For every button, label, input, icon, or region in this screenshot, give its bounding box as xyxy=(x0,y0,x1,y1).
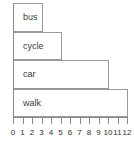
x-tick-label: 11 xyxy=(113,127,121,138)
bar-label: car xyxy=(23,70,36,79)
bar-walk: walk xyxy=(13,89,128,118)
bar-car: car xyxy=(13,60,109,89)
x-tick-label: 0 xyxy=(11,127,15,138)
x-tick-label: 1 xyxy=(20,127,24,138)
x-tick xyxy=(32,117,33,124)
x-tick xyxy=(42,117,43,124)
x-tick-label: 12 xyxy=(123,127,132,138)
bar-cycle: cycle xyxy=(13,32,62,61)
x-tick xyxy=(61,117,62,124)
plot-area: buscyclecarwalk 0123456789101112 xyxy=(0,0,134,141)
bar-chart: buscyclecarwalk 0123456789101112 xyxy=(0,0,134,141)
x-tick xyxy=(70,117,71,124)
bar-label: walk xyxy=(23,98,41,107)
bar-label: bus xyxy=(23,13,38,22)
bar-bus: bus xyxy=(13,3,43,32)
x-tick xyxy=(51,117,52,124)
x-axis-ticks xyxy=(0,117,134,125)
x-tick-label: 4 xyxy=(49,127,53,138)
x-tick xyxy=(118,117,119,124)
x-tick xyxy=(89,117,90,124)
x-tick-label: 3 xyxy=(39,127,43,138)
x-tick xyxy=(80,117,81,124)
x-axis-tick-labels: 0123456789101112 xyxy=(0,127,134,139)
y-axis-line xyxy=(13,3,14,119)
x-tick-label: 2 xyxy=(30,127,34,138)
x-tick-label: 6 xyxy=(68,127,72,138)
x-tick xyxy=(13,117,14,124)
x-tick-label: 10 xyxy=(104,127,113,138)
x-tick-label: 5 xyxy=(58,127,62,138)
x-tick xyxy=(99,117,100,124)
bar-label: cycle xyxy=(23,41,44,50)
x-tick xyxy=(23,117,24,124)
x-tick-label: 8 xyxy=(87,127,91,138)
x-tick xyxy=(127,117,128,124)
x-tick xyxy=(108,117,109,124)
x-tick-label: 9 xyxy=(96,127,100,138)
x-tick-label: 7 xyxy=(77,127,81,138)
